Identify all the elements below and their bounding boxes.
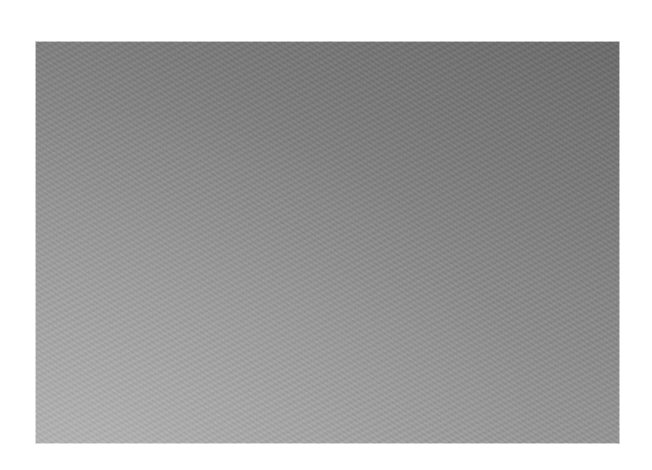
image-canvas: [0, 0, 652, 470]
surface-lighting: [35, 41, 620, 444]
gray-textured-surface: [35, 41, 620, 444]
